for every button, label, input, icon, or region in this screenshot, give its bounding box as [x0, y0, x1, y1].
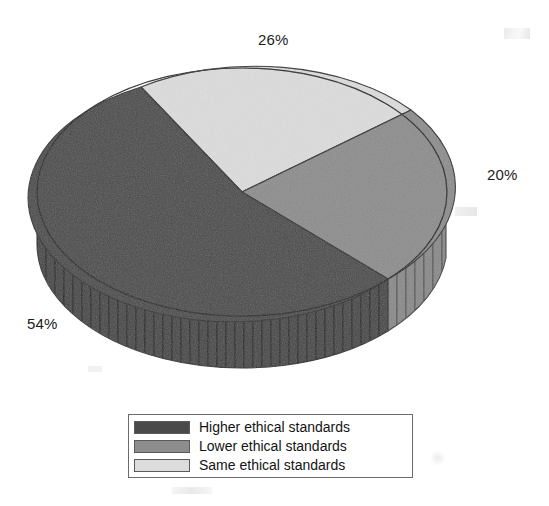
chart-legend: Higher ethical standards Lower ethical s… [128, 414, 413, 478]
legend-swatch-lower [134, 440, 190, 453]
legend-item-same: Same ethical standards [134, 456, 408, 475]
legend-label-same: Same ethical standards [199, 458, 345, 473]
legend-swatch-higher [134, 421, 190, 434]
slice-label-lower: 20% [487, 166, 518, 183]
pie-chart: 26% 20% 54% Higher ethical standards Low… [0, 0, 549, 506]
slice-label-higher: 54% [27, 315, 58, 332]
slice-label-same: 26% [258, 31, 289, 48]
legend-swatch-same [134, 459, 190, 472]
legend-item-higher: Higher ethical standards [134, 418, 408, 437]
legend-label-lower: Lower ethical standards [199, 439, 347, 454]
legend-label-higher: Higher ethical standards [199, 420, 350, 435]
legend-item-lower: Lower ethical standards [134, 437, 408, 456]
